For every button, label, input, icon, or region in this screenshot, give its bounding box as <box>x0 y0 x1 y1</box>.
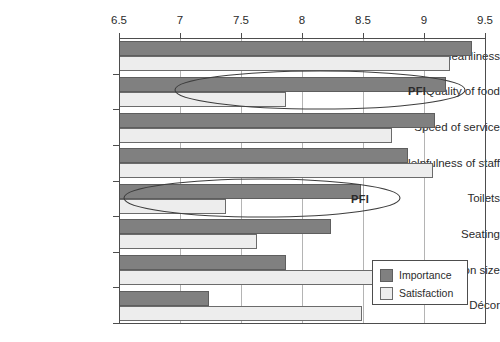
bar-satisfaction <box>119 163 433 178</box>
x-tick-label: 8.5 <box>355 14 371 26</box>
chart-legend: Importance Satisfaction <box>372 260 468 305</box>
plot-frame-bottom <box>119 323 486 324</box>
plot-frame-top <box>119 38 486 39</box>
legend-label-satisfaction: Satisfaction <box>399 287 453 299</box>
x-tick-label: 7 <box>177 14 183 26</box>
bar-satisfaction <box>119 234 257 249</box>
legend-label-importance: Importance <box>399 269 452 281</box>
bar-satisfaction <box>119 92 286 107</box>
legend-item-importance: Importance <box>380 266 467 284</box>
bar-importance <box>119 219 331 234</box>
legend-swatch-importance-icon <box>380 269 393 282</box>
plot-frame-right <box>485 38 486 323</box>
bar-importance <box>119 148 408 163</box>
performance-importance-chart: 6.577.588.599.5 CleanlinessQuality of fo… <box>0 0 500 342</box>
bar-satisfaction <box>119 56 450 71</box>
bar-satisfaction <box>119 306 362 321</box>
bar-importance <box>119 113 435 128</box>
pfi-label-quality-of-food: PFI <box>408 85 426 97</box>
x-tick-label: 6.5 <box>111 14 127 26</box>
bar-importance <box>119 255 286 270</box>
x-tick-label: 9.5 <box>477 14 493 26</box>
bar-importance <box>119 291 209 306</box>
bar-importance <box>119 41 472 56</box>
legend-item-satisfaction: Satisfaction <box>380 284 467 302</box>
pfi-label-toilets: PFI <box>351 193 369 205</box>
bar-importance <box>119 77 446 92</box>
bar-satisfaction <box>119 270 378 285</box>
bar-importance <box>119 184 361 199</box>
x-tick-label: 7.5 <box>233 14 249 26</box>
plot-frame-left <box>119 38 120 323</box>
category-label: Toilets <box>388 192 500 204</box>
bar-satisfaction <box>119 128 392 143</box>
x-tick-label: 9 <box>421 14 427 26</box>
bar-satisfaction <box>119 199 226 214</box>
category-label: Seating <box>388 228 500 240</box>
legend-swatch-satisfaction-icon <box>380 287 393 300</box>
x-tick-label: 8 <box>299 14 305 26</box>
